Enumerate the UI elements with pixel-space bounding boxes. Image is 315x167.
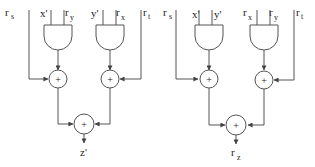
right-circuit: r s x' y' r x r y r t + + + r z bbox=[163, 6, 304, 162]
wire-right-add2-out bbox=[248, 89, 264, 125]
label-left-ry-sub: y bbox=[70, 13, 74, 22]
label-right-output-sub: z bbox=[237, 153, 241, 162]
label-right-y-prime: y' bbox=[214, 8, 222, 20]
adder-right-2-symbol: + bbox=[261, 75, 267, 86]
circuit-diagram: r s x' r y y' r x r t + + + bbox=[0, 0, 315, 167]
label-right-rt-base: r bbox=[296, 6, 300, 18]
label-right-rx-sub: x bbox=[248, 13, 252, 22]
label-left-rt-base: r bbox=[143, 6, 147, 18]
adder-left-final-symbol: + bbox=[81, 119, 87, 130]
label-right-output-base: r bbox=[231, 146, 235, 158]
wire-left-rs bbox=[29, 10, 48, 79]
label-left-rs-base: r bbox=[5, 6, 9, 18]
label-right-rx-base: r bbox=[243, 6, 247, 18]
wire-left-add2-out bbox=[95, 88, 110, 124]
label-left-rt-sub: t bbox=[148, 12, 151, 21]
label-left-ry-base: r bbox=[65, 6, 69, 18]
adder-left-1-symbol: + bbox=[55, 74, 61, 85]
label-left-x-prime: x' bbox=[40, 7, 48, 19]
label-left-output: z' bbox=[80, 146, 87, 158]
label-right-rs-base: r bbox=[163, 6, 167, 18]
label-right-x-prime: x' bbox=[192, 8, 200, 20]
wire-left-add1-out bbox=[58, 88, 73, 124]
wire-right-rs bbox=[176, 10, 198, 79]
adder-right-1-symbol: + bbox=[206, 74, 212, 85]
label-left-rx-base: r bbox=[116, 6, 120, 18]
label-right-ry-sub: y bbox=[274, 13, 278, 22]
label-left-y-prime: y' bbox=[91, 7, 99, 19]
and-gate-right-2 bbox=[250, 25, 278, 50]
and-gate-left-1 bbox=[44, 25, 72, 50]
label-left-rx-sub: x bbox=[121, 13, 125, 22]
wire-right-add1-out bbox=[209, 88, 225, 125]
and-gate-left-2 bbox=[96, 25, 124, 50]
and-gate-right-1 bbox=[195, 25, 223, 50]
adder-left-2-symbol: + bbox=[107, 74, 113, 85]
left-circuit: r s x' r y y' r x r t + + + bbox=[5, 6, 151, 158]
label-right-rt-sub: t bbox=[301, 12, 304, 21]
label-right-rs-sub: s bbox=[169, 12, 172, 21]
adder-right-final-symbol: + bbox=[233, 120, 239, 131]
label-left-rs-sub: s bbox=[11, 12, 14, 21]
